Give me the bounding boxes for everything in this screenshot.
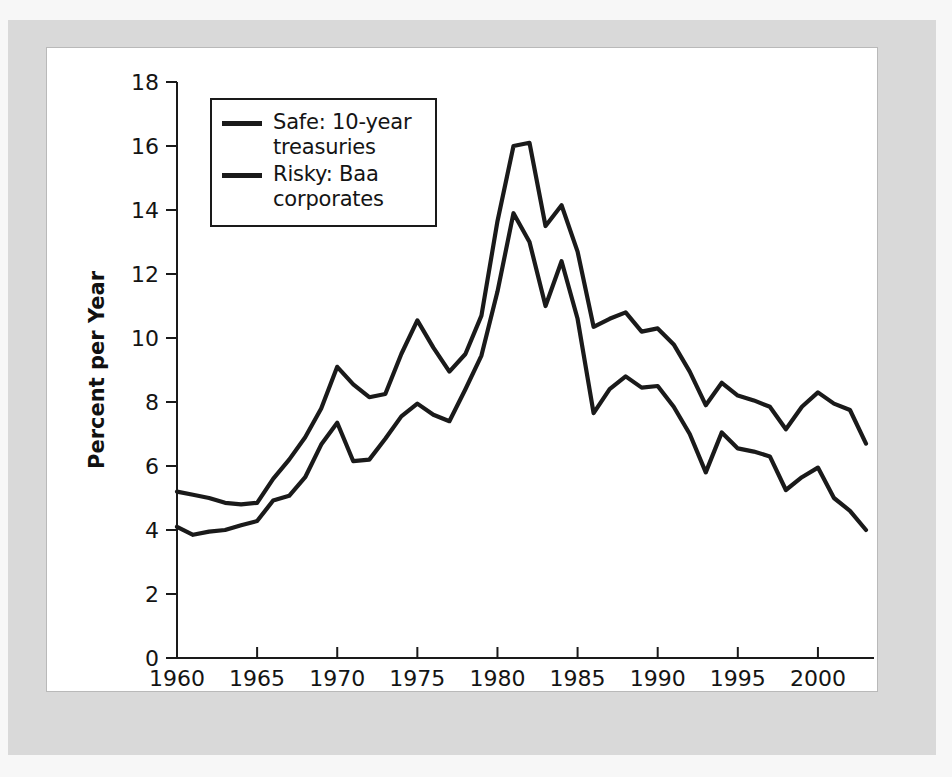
series-line-safe	[177, 213, 866, 535]
legend-line-swatch-risky-icon	[222, 173, 262, 178]
y-tick-label: 2	[145, 582, 159, 607]
y-tick-label: 12	[131, 262, 159, 287]
y-tick-label: 16	[131, 134, 159, 159]
y-tick-label: 6	[145, 454, 159, 479]
y-tick-label: 10	[131, 326, 159, 351]
legend-label-safe-line2: treasuries	[273, 135, 376, 159]
x-tick-label: 2000	[790, 666, 846, 691]
legend-label-risky-line2: corporates	[273, 187, 384, 211]
chart-canvas: 024681012141618 196019651970197519801985…	[46, 47, 878, 692]
legend-entry-risky: Risky: Baa corporates	[222, 162, 427, 212]
legend-label-safe: Safe: 10-year treasuries	[273, 110, 411, 160]
x-tick-label: 1975	[389, 666, 445, 691]
chart-legend: Safe: 10-year treasuries Risky: Baa corp…	[210, 98, 437, 227]
y-tick-label: 14	[131, 198, 159, 223]
scanned-page-frame: 024681012141618 196019651970197519801985…	[0, 0, 952, 777]
x-tick-label: 1970	[309, 666, 365, 691]
legend-entry-safe: Safe: 10-year treasuries	[222, 110, 427, 160]
x-tick-label: 1960	[149, 666, 205, 691]
x-axis: 196019651970197519801985199019952000	[149, 647, 874, 691]
y-axis: 024681012141618	[131, 70, 177, 671]
legend-label-risky: Risky: Baa corporates	[273, 162, 384, 212]
y-axis-title: Percent per Year	[85, 270, 109, 469]
x-tick-label: 1980	[469, 666, 525, 691]
interest-rate-line-chart: 024681012141618 196019651970197519801985…	[46, 47, 878, 692]
x-tick-label: 1990	[630, 666, 686, 691]
y-tick-label: 18	[131, 70, 159, 95]
x-tick-label: 1985	[550, 666, 606, 691]
x-tick-label: 1965	[229, 666, 285, 691]
y-tick-label: 8	[145, 390, 159, 415]
y-tick-label: 4	[145, 518, 159, 543]
legend-label-risky-line1: Risky: Baa	[273, 162, 379, 186]
legend-label-safe-line1: Safe: 10-year	[273, 110, 411, 134]
x-tick-label: 1995	[710, 666, 766, 691]
legend-line-swatch-safe-icon	[222, 121, 262, 126]
